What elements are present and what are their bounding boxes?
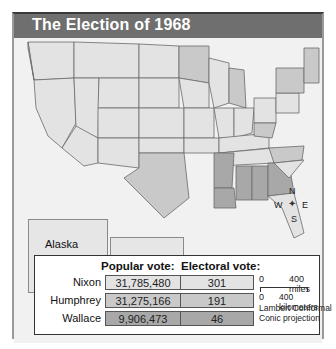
projection-line2: Conic projection — [259, 313, 320, 323]
title-bar: The Election of 1968 — [14, 14, 322, 38]
candidate-name: Humphrey — [50, 294, 101, 306]
legend-box: Popular vote: Electoral vote: Nixon 31,7… — [34, 255, 320, 335]
compass-north: N — [289, 186, 296, 196]
projection-line1: Lambert Conformal — [259, 303, 332, 313]
compass-west: W — [274, 200, 283, 210]
map-title: The Election of 1968 — [32, 16, 191, 34]
compass-star-icon: ✦ — [288, 198, 296, 209]
compass-south: S — [291, 214, 297, 224]
electoral-vote-cell: 301 — [180, 275, 254, 290]
compass-east: E — [302, 200, 308, 210]
electoral-vote-header: Electoral vote: — [181, 260, 260, 272]
alaska-label: Alaska — [45, 238, 78, 250]
candidate-name: Nixon — [73, 276, 101, 288]
popular-vote-cell: 31,785,480 — [105, 275, 181, 290]
popular-vote-cell: 31,275,166 — [105, 293, 181, 308]
map-frame: The Election of 1968 — [12, 12, 324, 339]
popular-vote-header: Popular vote: — [101, 260, 174, 272]
scale-bar: 0 400 miles 0 400 kilometers Lambert Con… — [257, 274, 319, 334]
popular-vote-cell: 9,906,473 — [105, 311, 181, 326]
candidate-name: Wallace — [62, 312, 101, 324]
electoral-vote-cell: 46 — [180, 311, 254, 326]
scale-km-zero: 0 — [259, 292, 264, 302]
compass-rose: N W E S ✦ — [272, 186, 312, 226]
electoral-vote-cell: 191 — [180, 293, 254, 308]
scale-miles-zero: 0 — [259, 274, 264, 284]
